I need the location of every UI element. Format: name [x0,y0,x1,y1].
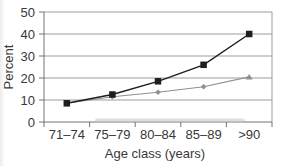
square-marker [155,78,162,85]
y-tick-label: 20 [21,71,35,86]
chart-canvas: 0102030405071–7475–7980–8485–89>90 Perce… [0,0,292,166]
y-tick-label: 0 [28,115,35,130]
age-percent-line-chart: 0102030405071–7475–7980–8485–89>90 Perce… [0,0,292,166]
square-marker [200,62,207,69]
x-tick-label: 85–89 [186,127,222,142]
diamond-marker [155,90,161,96]
y-tick-label: 50 [21,5,35,20]
y-tick-label: 40 [21,27,35,42]
diamond-marker [201,84,207,90]
y-tick-label: 10 [21,93,35,108]
square-marker [109,91,116,98]
square-marker [246,31,253,38]
x-tick-label: 71–74 [49,127,85,142]
square-marker [64,100,71,107]
x-axis-title: Age class (years) [105,146,205,161]
x-tick-label: 80–84 [140,127,176,142]
triangle-marker [246,74,253,80]
scan-smudge-artifact [95,119,245,123]
y-tick-label: 30 [21,49,35,64]
x-tick-label: >90 [238,127,260,142]
scan-edge-artifact [0,0,5,166]
x-tick-label: 75–79 [94,127,130,142]
